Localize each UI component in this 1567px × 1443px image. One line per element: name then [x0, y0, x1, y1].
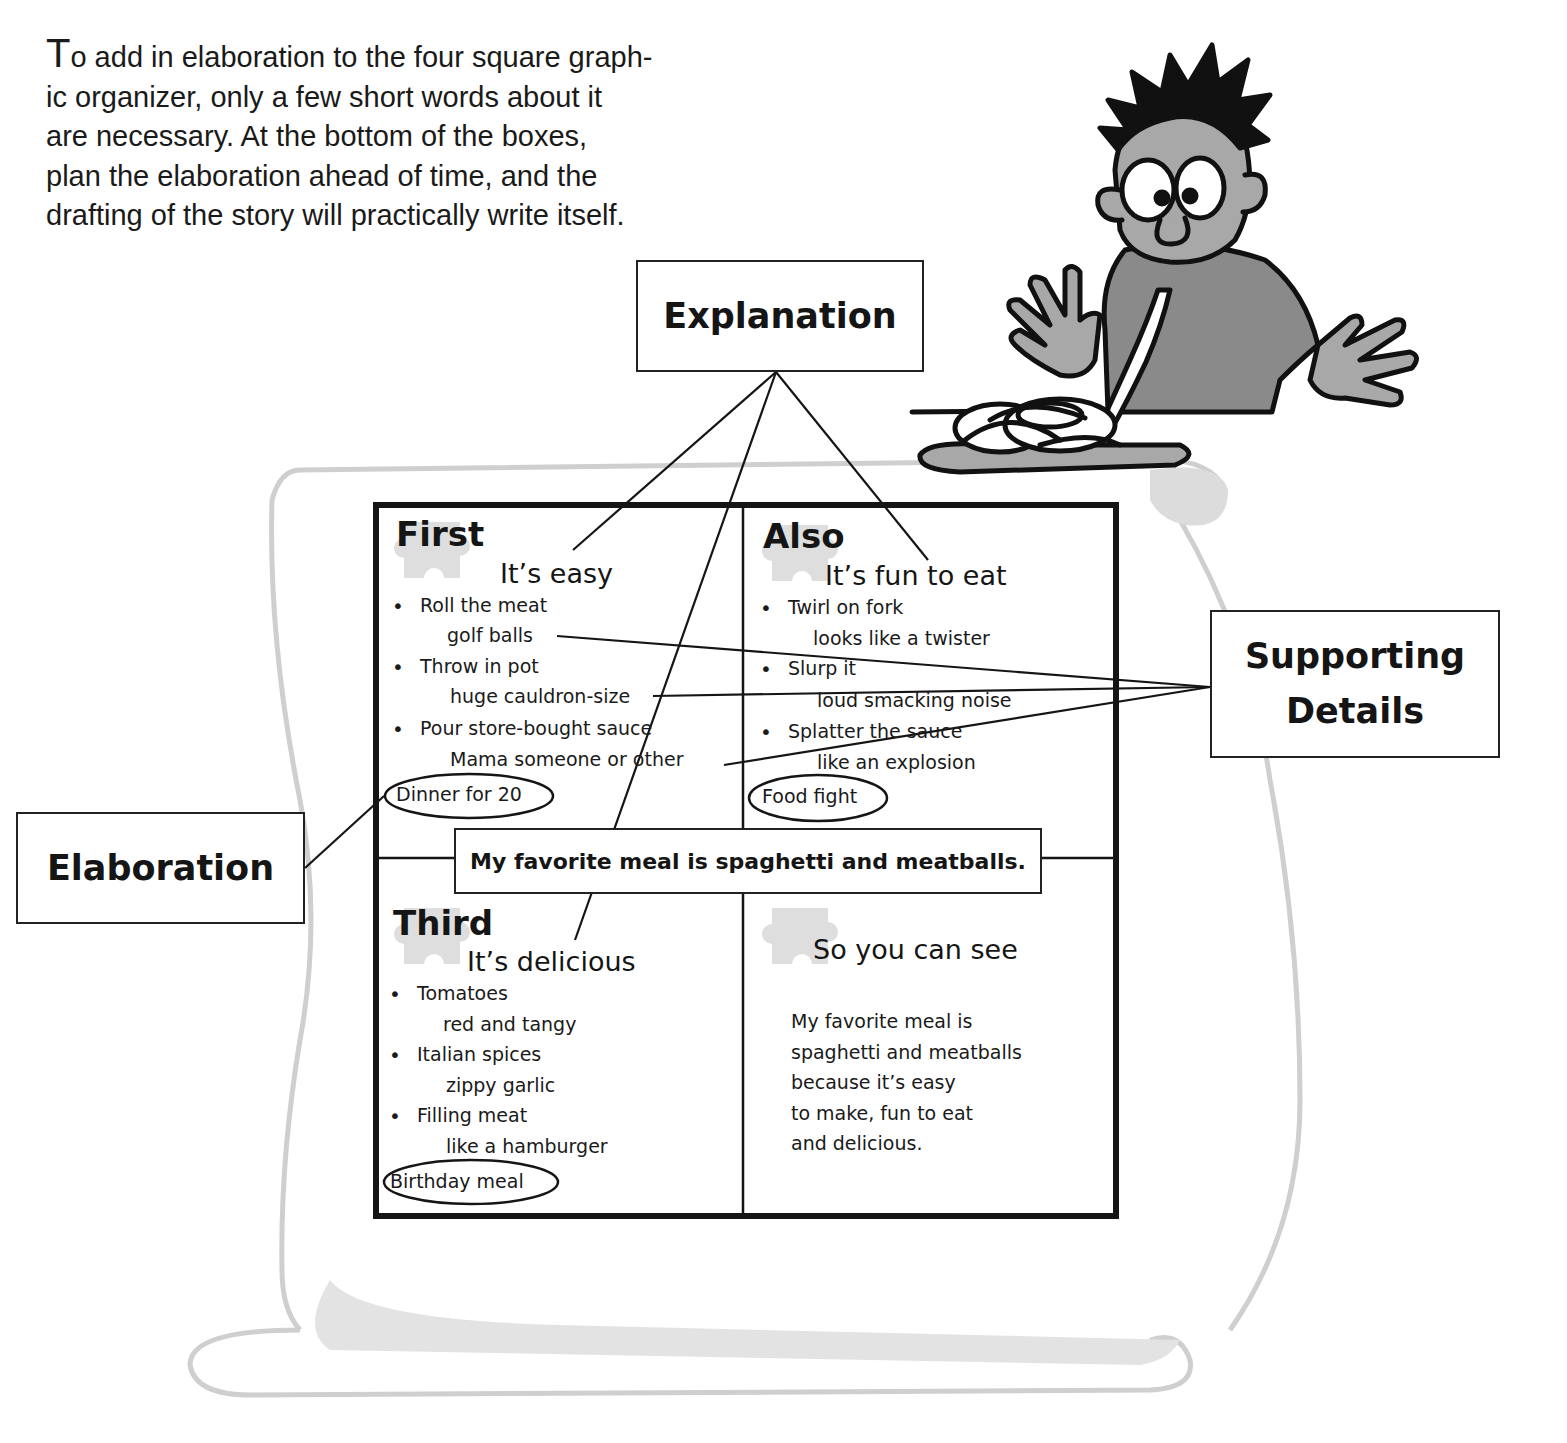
elaboration-note: Birthday meal: [390, 1170, 524, 1192]
boy-hand-right: [1310, 316, 1417, 405]
conclusion-heading: So you can see: [813, 934, 1018, 965]
boy-nose: [1157, 218, 1188, 244]
scroll-curl-top-right: [1150, 468, 1228, 526]
summary-line: and delicious.: [791, 1128, 1022, 1159]
quadrant-topic: It’s fun to eat: [825, 560, 1007, 591]
explanation-callout: Explanation: [636, 260, 924, 372]
boy-ear-left: [1098, 189, 1122, 220]
supporting-label-line1: Supporting: [1245, 629, 1465, 684]
cartoon-boy-illustration: [912, 45, 1417, 472]
boy-ear-right: [1243, 174, 1265, 212]
intro-line: To add in elaboration to the four square…: [46, 38, 786, 78]
list-item-detail: zippy garlic: [446, 1074, 555, 1096]
conclusion-summary: My favorite meal is spaghetti and meatba…: [791, 1006, 1022, 1159]
elaboration-note: Food fight: [762, 785, 857, 807]
elaboration-callout: Elaboration: [16, 812, 305, 924]
supporting-label-line2: Details: [1286, 684, 1424, 739]
list-item-point: Italian spices: [417, 1043, 541, 1065]
list-item-point: Slurp it: [788, 657, 856, 679]
intro-line: ic organizer, only a few short words abo…: [46, 78, 786, 118]
list-item-point: Twirl on fork: [788, 596, 903, 618]
main-idea-box: My favorite meal is spaghetti and meatba…: [454, 828, 1042, 894]
quadrant-heading: First: [396, 514, 484, 554]
boy-hand-left: [1009, 266, 1100, 376]
list-item-point: Filling meat: [417, 1104, 527, 1126]
spaghetti-pile: [955, 399, 1120, 452]
scroll-graphic: [190, 459, 1300, 1395]
intro-line: are necessary. At the bottom of the boxe…: [46, 117, 786, 157]
quadrant-topic: It’s delicious: [467, 946, 636, 977]
list-item-detail: red and tangy: [443, 1013, 576, 1035]
list-item-point: Tomatoes: [417, 982, 508, 1004]
main-idea-text: My favorite meal is spaghetti and meatba…: [470, 849, 1026, 874]
intro-line-1-rest: o add in elaboration to the four square …: [70, 41, 652, 73]
list-item-detail: like an explosion: [817, 751, 976, 773]
quadrant-heading: Also: [763, 516, 845, 556]
intro-line: plan the elaboration ahead of time, and …: [46, 157, 786, 197]
list-item-point: Roll the meat: [420, 594, 547, 616]
boy-eye-left: [1122, 160, 1174, 220]
intro-paragraph: To add in elaboration to the four square…: [46, 38, 786, 236]
elaboration-note: Dinner for 20: [396, 783, 522, 805]
boy-pupil-left: [1156, 192, 1168, 204]
list-item-detail: huge cauldron-size: [450, 685, 630, 707]
summary-line: My favorite meal is: [791, 1006, 1022, 1037]
boy-eye-right: [1176, 158, 1224, 218]
list-item-detail: looks like a twister: [813, 627, 990, 649]
list-item-point: Throw in pot: [420, 655, 539, 677]
list-item-point: Pour store-bought sauce: [420, 717, 652, 739]
summary-line: to make, fun to eat: [791, 1098, 1022, 1129]
elaboration-label: Elaboration: [47, 848, 274, 888]
quadrant-heading: Third: [393, 903, 493, 943]
list-item-detail: loud smacking noise: [817, 689, 1012, 711]
drop-cap: T: [46, 31, 70, 75]
supporting-details-callout: Supporting Details: [1210, 610, 1500, 758]
quadrant-topic: It’s easy: [500, 558, 613, 589]
list-item-detail: Mama someone or other: [450, 748, 683, 770]
summary-line: because it’s easy: [791, 1067, 1022, 1098]
scroll-curl-bottom: [315, 1280, 1180, 1365]
boy-pupil-right: [1184, 190, 1196, 202]
list-item-point: Splatter the sauce: [788, 720, 962, 742]
summary-line: spaghetti and meatballs: [791, 1037, 1022, 1068]
explanation-label: Explanation: [663, 296, 896, 336]
intro-line: drafting of the story will practically w…: [46, 196, 786, 236]
list-item-detail: like a hamburger: [446, 1135, 608, 1157]
list-item-detail: golf balls: [447, 624, 533, 646]
